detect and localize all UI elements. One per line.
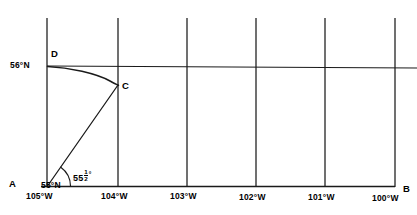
point-label-d: D [51,49,58,59]
point-label-a: A [9,179,16,189]
angle-degree-symbol: ° [89,171,92,178]
longitude-label-103w: 103°W [170,192,197,201]
angle-arc-marker [61,167,71,186]
latitude-label-56n: 56°N [10,61,30,70]
longitude-label-101w: 101°W [308,193,335,202]
angle-fraction-denominator: 2 [84,176,89,182]
parallel-56n [47,66,417,68]
latitude-label-55n: 55°N [41,181,61,190]
longitude-label-105w: 105°W [26,192,53,201]
graticule-figure: 56°N 55°N 105°W 104°W 103°W 102°W 101°W … [0,0,417,215]
longitude-label-100w: 100°W [372,194,399,203]
parallel-lines [41,66,417,187]
longitude-label-102w: 102°W [239,193,266,202]
great-circle-arc-d-to-c [48,67,119,86]
diagram-canvas [0,0,417,215]
angle-fraction: 12 [84,169,89,183]
longitude-label-104w: 104°W [101,192,128,201]
angle-label: 5512° [73,169,91,183]
angle-whole-number: 55 [73,173,83,183]
point-label-b: B [403,184,410,194]
meridian-lines [47,18,395,187]
point-label-c: C [122,81,129,91]
